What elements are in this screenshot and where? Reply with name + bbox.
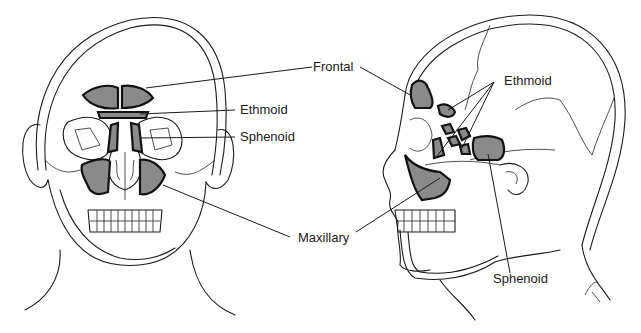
ethmoid-cell-3 bbox=[458, 128, 470, 140]
label-frontal: Frontal bbox=[313, 60, 353, 73]
leader-frontal-front bbox=[146, 67, 312, 88]
maxillary-sinus-side bbox=[405, 155, 450, 200]
ethmoid-cell-4 bbox=[460, 144, 470, 154]
frontal-sinus-front-right bbox=[122, 86, 153, 108]
sphenoid-sinus-front-left bbox=[108, 123, 118, 152]
leader-maxillary-front bbox=[163, 185, 290, 237]
label-sphenoid-side: Sphenoid bbox=[493, 272, 548, 285]
label-maxillary: Maxillary bbox=[298, 231, 349, 244]
label-ethmoid-front: Ethmoid bbox=[240, 103, 288, 116]
ethmoid-cell-1 bbox=[442, 124, 454, 134]
maxillary-sinus-front-left bbox=[82, 159, 110, 194]
ethmoid-cell-5 bbox=[433, 138, 444, 158]
frontal-sinus-side bbox=[411, 81, 433, 108]
ethmoid-sinus-side-upper bbox=[438, 104, 455, 116]
label-sphenoid-front: Sphenoid bbox=[240, 130, 295, 143]
leader-ethmoid-front bbox=[140, 110, 235, 114]
ethmoid-cell-2 bbox=[448, 136, 460, 146]
frontal-sinus-front-left bbox=[83, 86, 118, 109]
label-ethmoid-side: Ethmoid bbox=[504, 74, 552, 87]
ethmoid-sinus-front bbox=[98, 112, 148, 118]
leader-frontal-side bbox=[360, 67, 412, 96]
front-view-head bbox=[23, 17, 235, 315]
maxillary-sinus-front-right bbox=[140, 160, 165, 195]
leader-sphenoid-front bbox=[140, 137, 235, 138]
